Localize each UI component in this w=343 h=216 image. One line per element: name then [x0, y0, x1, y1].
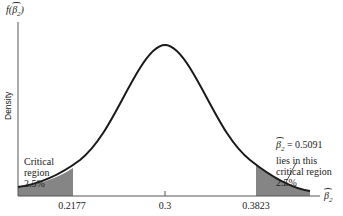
tick-0.2177: 0.2177: [58, 200, 86, 211]
y-axis-title-f: f: [6, 4, 9, 15]
left-note-line3: 2.5%: [24, 178, 54, 189]
tick-0.3823: 0.3823: [242, 200, 270, 211]
left-note-line2: region: [24, 167, 54, 178]
left-note-line1: Critical: [24, 156, 54, 167]
right-note-line1: β2 = 0.5091: [276, 139, 332, 155]
x-axis-label: β2: [324, 190, 332, 206]
right-note-line4: 2.5%: [276, 177, 332, 188]
right-note-line3: critical region: [276, 166, 332, 177]
y-axis-title-beta: β2: [12, 4, 20, 20]
y-axis-label: Density: [3, 92, 13, 120]
tick-0.3: 0.3: [159, 200, 172, 211]
bell-curve: [18, 45, 310, 191]
right-critical-note: β2 = 0.5091 lies in this critical region…: [276, 139, 332, 188]
left-critical-note: Critical region 2.5%: [24, 156, 54, 189]
right-note-line2: lies in this: [276, 155, 332, 166]
y-axis-title: f(β2): [6, 4, 24, 20]
